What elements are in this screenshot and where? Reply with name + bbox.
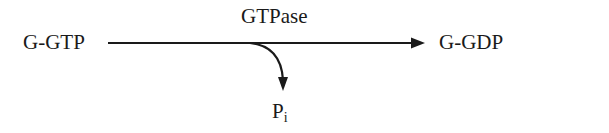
reaction-arrows — [0, 0, 609, 133]
byproduct-branch-arrow — [250, 43, 288, 91]
branch-arrowhead-icon — [278, 77, 288, 91]
arrowhead-icon — [411, 38, 425, 49]
